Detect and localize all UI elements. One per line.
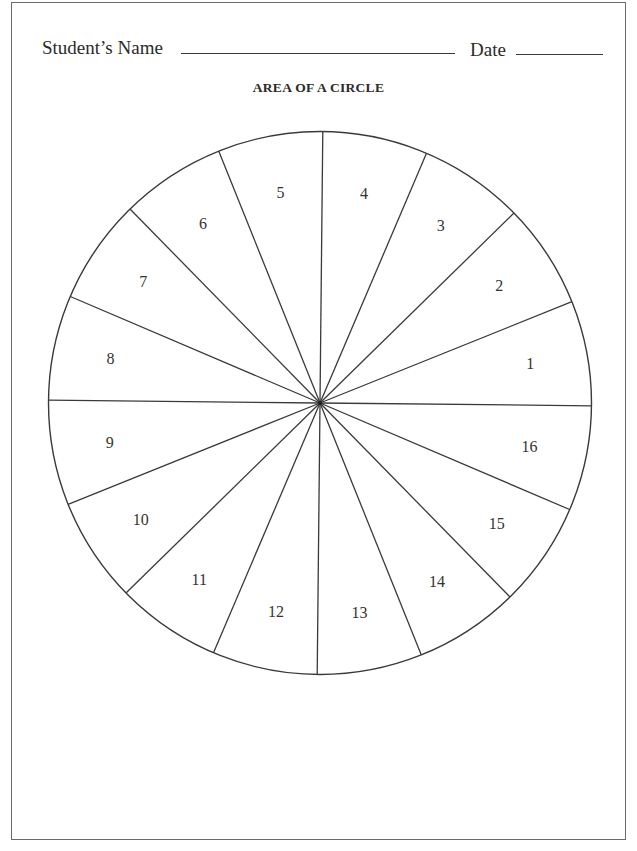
segment-label: 16 xyxy=(521,438,537,455)
segment-label: 7 xyxy=(139,273,147,290)
segment-label: 2 xyxy=(495,277,503,294)
segment-label: 10 xyxy=(133,511,149,528)
spoke-line xyxy=(320,213,514,403)
segment-label: 1 xyxy=(526,355,534,372)
segment-label: 11 xyxy=(192,571,207,588)
spoke-line xyxy=(219,151,320,403)
segment-label: 4 xyxy=(360,185,368,202)
spoke-line xyxy=(320,403,570,510)
spoke-line xyxy=(320,132,323,404)
spoke-line xyxy=(49,400,321,403)
segment-label: 15 xyxy=(489,515,505,532)
segment-label: 8 xyxy=(107,350,115,367)
spoke-line xyxy=(68,403,320,504)
spoke-line xyxy=(320,403,421,655)
segment-label: 9 xyxy=(106,434,114,451)
center-point xyxy=(318,401,322,405)
spoke-line xyxy=(130,209,320,403)
spoke-line xyxy=(320,403,592,406)
spoke-line xyxy=(317,403,320,675)
segment-label: 5 xyxy=(277,184,285,201)
segment-label: 3 xyxy=(437,217,445,234)
segment-label: 6 xyxy=(199,215,207,232)
segment-label: 14 xyxy=(429,573,445,590)
spoke-line xyxy=(320,153,427,403)
spoke-line xyxy=(320,302,572,403)
spoke-line xyxy=(214,403,321,653)
spoke-line xyxy=(126,403,320,593)
segment-label: 13 xyxy=(352,604,368,621)
spoke-line xyxy=(320,403,510,597)
circle-diagram: 12345678910111213141516 xyxy=(0,0,637,851)
segment-label: 12 xyxy=(268,603,284,620)
